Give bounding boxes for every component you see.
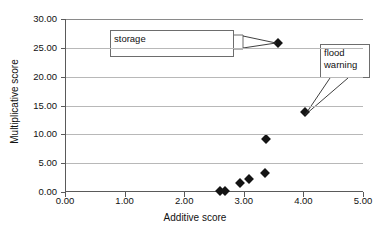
x-tick-label: 5.00: [343, 196, 383, 206]
data-point: [220, 186, 230, 196]
y-gridline: [65, 48, 363, 49]
y-tick-label: 25.00: [11, 43, 57, 53]
callout-flood-warning: flood warning: [320, 44, 370, 78]
y-tick-mark: [61, 77, 66, 78]
callout-storage-label: storage: [114, 33, 146, 44]
y-tick-mark: [61, 163, 66, 164]
data-point: [261, 134, 271, 144]
y-tick-label: 15.00: [11, 101, 57, 111]
callout-storage: storage: [110, 30, 234, 57]
data-point: [260, 168, 270, 178]
y-gridline: [65, 19, 363, 20]
y-tick-label: 10.00: [11, 129, 57, 139]
y-gridline: [65, 163, 363, 164]
scatter-chart: Additive score Multiplicative score stor…: [0, 0, 390, 245]
x-tick-label: 1.00: [105, 196, 145, 206]
x-axis-title: Additive score: [0, 212, 390, 223]
x-tick-label: 2.00: [164, 196, 204, 206]
x-tick-label: 0.00: [45, 196, 85, 206]
y-tick-mark: [61, 134, 66, 135]
y-tick-mark: [61, 19, 66, 20]
y-gridline: [65, 77, 363, 78]
y-tick-mark: [61, 106, 66, 107]
y-tick-label: 30.00: [11, 14, 57, 24]
data-point: [300, 107, 310, 117]
data-point: [235, 178, 245, 188]
y-gridline: [65, 134, 363, 135]
data-point: [273, 38, 283, 48]
x-tick-label: 3.00: [224, 196, 264, 206]
y-tick-mark: [61, 48, 66, 49]
y-tick-label: 20.00: [11, 72, 57, 82]
x-tick-label: 4.00: [283, 196, 323, 206]
callout-flood-line2: warning: [324, 59, 366, 71]
y-gridline: [65, 106, 363, 107]
y-tick-label: 5.00: [11, 158, 57, 168]
